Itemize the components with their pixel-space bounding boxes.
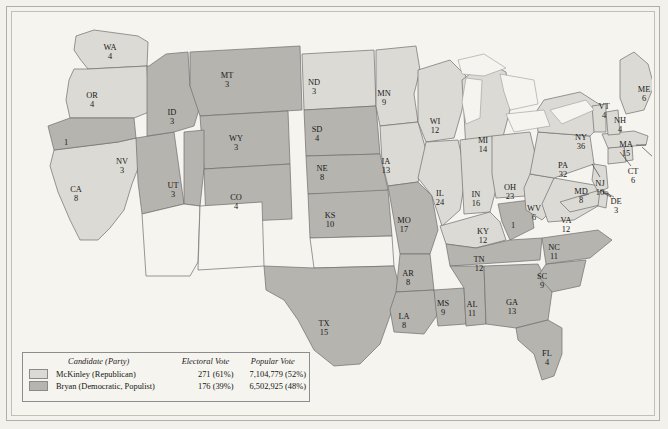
state-abbr: DE xyxy=(610,197,621,206)
legend-popular-vote: 7,104,779 (52%) xyxy=(237,368,309,380)
state-or[interactable] xyxy=(66,66,149,118)
legend-body: McKinley (Republican)271 (61%)7,104,779 … xyxy=(23,368,309,392)
state-abbr: NV xyxy=(116,157,128,166)
state-abbr: GA xyxy=(506,298,518,307)
electoral-votes: 8 xyxy=(74,194,78,203)
state-abbr: AR xyxy=(402,269,414,278)
legend-header-popular: Popular Vote xyxy=(237,355,309,368)
electoral-votes: 12 xyxy=(562,225,570,234)
legend-table: Candidate (Party) Electoral Vote Popular… xyxy=(23,355,309,392)
state-tx[interactable] xyxy=(264,266,400,366)
state-abbr: OH xyxy=(504,183,516,192)
electoral-votes: 3 xyxy=(171,190,175,199)
electoral-votes: 15 xyxy=(320,328,328,337)
state-label-nj: NJ10 xyxy=(595,179,605,197)
electoral-votes: 13 xyxy=(508,307,516,316)
state-abbr: MA xyxy=(619,140,633,149)
electoral-votes: 9 xyxy=(382,98,386,107)
state-ca[interactable] xyxy=(50,138,142,240)
legend-popular-vote: 6,502,925 (48%) xyxy=(237,380,309,392)
state-abbr: MT xyxy=(221,71,234,80)
electoral-votes: 15 xyxy=(622,149,630,158)
state-abbr: ID xyxy=(168,108,177,117)
electoral-votes: 14 xyxy=(479,145,488,154)
state-abbr: ND xyxy=(308,78,320,87)
electoral-votes: 17 xyxy=(400,225,408,234)
electoral-votes: 8 xyxy=(579,196,583,205)
electoral-votes: 6 xyxy=(631,176,635,185)
state-abbr: IN xyxy=(472,190,481,199)
state-label-de: DE3 xyxy=(610,197,621,215)
electoral-votes: 16 xyxy=(472,199,480,208)
state-me[interactable] xyxy=(620,52,652,114)
electoral-votes: 3 xyxy=(170,117,174,126)
state-abbr: NJ xyxy=(595,179,605,188)
state-nm[interactable] xyxy=(198,202,264,270)
state-ks[interactable] xyxy=(308,190,392,238)
state-wy[interactable] xyxy=(200,111,290,169)
state-az[interactable] xyxy=(142,204,200,276)
legend-candidate-name: Bryan (Democratic, Populist) xyxy=(53,380,174,392)
state-label-mi: MI14 xyxy=(478,136,488,154)
state-label-il: IL24 xyxy=(436,189,445,207)
state-abbr: MS xyxy=(437,299,449,308)
electoral-votes: 3 xyxy=(225,80,229,89)
states-layer xyxy=(48,30,652,380)
legend-swatch-cell xyxy=(23,380,53,392)
electoral-votes: 12 xyxy=(431,126,439,135)
electoral-votes: 32 xyxy=(559,170,567,179)
electoral-votes: 13 xyxy=(382,166,390,175)
state-label-ct: CT6 xyxy=(628,167,639,185)
state-abbr: LA xyxy=(398,312,409,321)
state-abbr: MN xyxy=(377,89,391,98)
state-abbr: KY xyxy=(477,227,489,236)
state-la[interactable] xyxy=(390,290,438,334)
state-abbr: MI xyxy=(478,136,488,145)
state-mn[interactable] xyxy=(376,46,420,126)
electoral-votes: 23 xyxy=(506,192,514,201)
state-abbr: NC xyxy=(548,243,560,252)
legend-header-electoral: Electoral Vote xyxy=(174,355,236,368)
state-abbr: WI xyxy=(430,117,441,126)
state-ut[interactable] xyxy=(184,130,204,206)
state-label-ky-split: 1 xyxy=(511,221,515,230)
legend-swatch-cell xyxy=(23,368,53,380)
electoral-votes: 3 xyxy=(234,143,238,152)
electoral-votes: 1 xyxy=(64,138,68,147)
electoral-votes: 6 xyxy=(642,94,646,103)
state-ne[interactable] xyxy=(306,154,388,194)
leader-ri xyxy=(642,147,652,158)
electoral-votes: 9 xyxy=(441,308,445,317)
state-label-ca-split: 1 xyxy=(64,138,68,147)
state-nv[interactable] xyxy=(136,132,184,214)
state-abbr: IA xyxy=(382,157,391,166)
state-abbr: OR xyxy=(86,91,98,100)
state-abbr: UT xyxy=(167,181,178,190)
legend-header-row: Candidate (Party) Electoral Vote Popular… xyxy=(23,355,309,368)
state-abbr: MO xyxy=(397,216,411,225)
great-lake-2 xyxy=(462,78,482,124)
state-mt[interactable] xyxy=(190,46,302,116)
electoral-votes: 11 xyxy=(468,309,476,318)
state-label-wi: WI12 xyxy=(430,117,441,135)
electoral-votes: 8 xyxy=(402,321,406,330)
state-label-ia: IA13 xyxy=(382,157,391,175)
state-abbr: TN xyxy=(473,255,484,264)
state-abbr: CT xyxy=(628,167,639,176)
electoral-votes: 12 xyxy=(479,236,487,245)
state-abbr: KS xyxy=(325,211,336,220)
map-legend: Candidate (Party) Electoral Vote Popular… xyxy=(22,352,310,402)
state-wi[interactable] xyxy=(418,60,466,142)
state-label-al: AL11 xyxy=(466,300,477,318)
legend-row: Bryan (Democratic, Populist)176 (39%)6,5… xyxy=(23,380,309,392)
electoral-votes: 8 xyxy=(406,278,410,287)
electoral-votes: 3 xyxy=(120,166,124,175)
state-abbr: SC xyxy=(537,272,548,281)
state-label-va: VA12 xyxy=(560,216,571,234)
state-ok[interactable] xyxy=(310,236,394,268)
state-fl[interactable] xyxy=(516,320,562,380)
state-abbr: ME xyxy=(638,85,651,94)
electoral-votes: 3 xyxy=(614,206,618,215)
legend-row: McKinley (Republican)271 (61%)7,104,779 … xyxy=(23,368,309,380)
electoral-votes: 1 xyxy=(511,221,515,230)
